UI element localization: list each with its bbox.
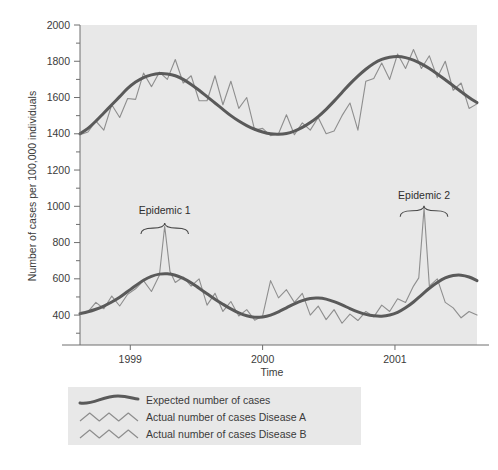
y-tick-label: 1200 (47, 164, 71, 176)
y-tick-label: 2000 (47, 19, 71, 31)
y-tick-label: 800 (52, 236, 70, 248)
x-tick-label: 2001 (383, 353, 407, 365)
annotation-label: Epidemic 1 (139, 204, 191, 216)
legend-item-label: Expected number of cases (146, 394, 270, 406)
chart-legend: Expected number of casesActual number of… (68, 387, 361, 445)
y-tick-label: 400 (52, 309, 70, 321)
y-tick-label: 600 (52, 272, 70, 284)
y-tick-label: 1800 (47, 55, 71, 67)
legend-item-label: Actual number of cases Disease A (146, 411, 306, 423)
y-tick-label: 1600 (47, 91, 71, 103)
annotation-label: Epidemic 2 (398, 189, 450, 201)
legend-item-label: Actual number of cases Disease B (146, 428, 307, 440)
y-axis-title: Number of cases per 100,000 individuals (26, 91, 38, 281)
y-tick-label: 1400 (47, 127, 71, 139)
y-tick-label: 1000 (47, 200, 71, 212)
x-axis-title: Time (261, 366, 284, 378)
epidemic-cases-chart: 200018001600140012001000800600400 199920… (0, 0, 498, 470)
x-tick-label: 2000 (251, 353, 275, 365)
x-tick-label: 1999 (119, 353, 143, 365)
